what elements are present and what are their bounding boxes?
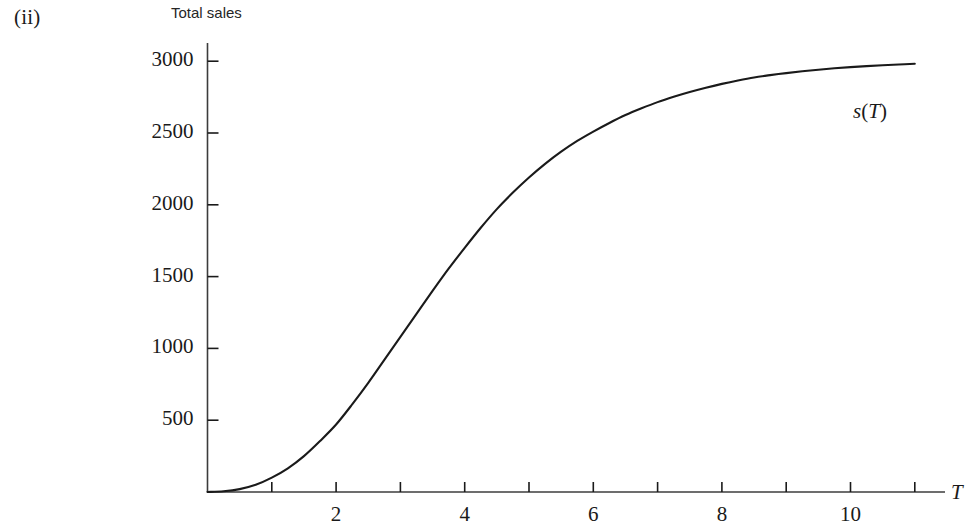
axes-group: [208, 43, 946, 492]
x-tick-marks: [272, 482, 915, 492]
sales-curve: [208, 64, 915, 492]
x-tick-label: 8: [702, 502, 742, 523]
plot-svg: [0, 0, 973, 523]
x-tick-label: 6: [573, 502, 613, 523]
y-tick-label: 2500: [124, 119, 194, 144]
x-tick-label: 2: [316, 502, 356, 523]
y-tick-label: 500: [124, 406, 194, 431]
x-tick-label: 10: [831, 502, 871, 523]
y-tick-label: 2000: [124, 191, 194, 216]
y-tick-label: 1500: [124, 263, 194, 288]
y-tick-label: 3000: [124, 47, 194, 72]
figure-container: (ii) Total sales T s(T) 5001000150020002…: [0, 0, 973, 523]
y-tick-marks: [208, 61, 219, 420]
x-tick-label: 4: [445, 502, 485, 523]
y-tick-label: 1000: [124, 334, 194, 359]
